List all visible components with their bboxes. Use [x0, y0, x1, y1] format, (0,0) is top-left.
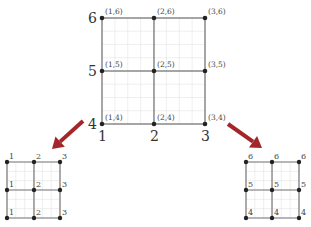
node-value-label: 2 — [36, 180, 41, 189]
node-value-label: 4 — [248, 208, 253, 217]
node-value-label: 5 — [301, 180, 306, 189]
right-grid-y-values: 666555444 — [244, 152, 306, 220]
node-coordinate-label: (2,5) — [157, 60, 175, 69]
node-value-label: 2 — [36, 152, 41, 161]
mesh-node — [152, 122, 157, 127]
mesh-projection-diagram: (1,6)(2,6)(3,6)(1,5)(2,5)(3,5)(1,4)(2,4)… — [0, 0, 311, 227]
node-value-label: 1 — [9, 180, 14, 189]
node-value-label: 6 — [301, 152, 306, 161]
mesh-node — [203, 122, 208, 127]
node-coordinate-label: (3,4) — [208, 113, 226, 122]
y-axis-tick-label: 4 — [88, 116, 97, 132]
mesh-node — [152, 69, 157, 74]
mesh-node — [203, 69, 208, 74]
node-value-label: 4 — [274, 208, 279, 217]
x-axis-tick-label: 3 — [201, 128, 210, 144]
mesh-node — [100, 16, 105, 21]
mesh-node — [203, 16, 208, 21]
arrow-left-shaft — [60, 121, 83, 142]
node-value-label: 6 — [248, 152, 253, 161]
node-value-label: 1 — [9, 152, 14, 161]
node-value-label: 2 — [36, 208, 41, 217]
main-grid: (1,6)(2,6)(3,6)(1,5)(2,5)(3,5)(1,4)(2,4)… — [88, 7, 226, 144]
node-coordinate-label: (2,4) — [157, 113, 175, 122]
x-axis-tick-label: 2 — [150, 128, 159, 144]
node-coordinate-label: (1,5) — [105, 60, 123, 69]
node-coordinate-label: (2,6) — [157, 7, 175, 16]
node-coordinate-label: (1,6) — [105, 7, 123, 16]
node-value-label: 6 — [274, 152, 279, 161]
mesh-node — [100, 122, 105, 127]
node-value-label: 1 — [9, 208, 14, 217]
node-coordinate-label: (3,5) — [208, 60, 226, 69]
node-value-label: 3 — [62, 180, 67, 189]
node-value-label: 4 — [301, 208, 306, 217]
node-value-label: 5 — [248, 180, 253, 189]
node-value-label: 3 — [62, 152, 67, 161]
left-grid-x-values: 123123123 — [5, 152, 67, 220]
mesh-node — [152, 16, 157, 21]
y-axis-tick-label: 6 — [88, 10, 97, 26]
x-axis-tick-label: 1 — [98, 128, 107, 144]
arrow-right-shaft — [228, 124, 253, 142]
node-coordinate-label: (1,4) — [105, 113, 123, 122]
node-coordinate-label: (3,6) — [208, 7, 226, 16]
y-axis-tick-label: 5 — [88, 63, 97, 79]
node-value-label: 3 — [62, 208, 67, 217]
node-value-label: 5 — [274, 180, 279, 189]
mesh-node — [100, 69, 105, 74]
